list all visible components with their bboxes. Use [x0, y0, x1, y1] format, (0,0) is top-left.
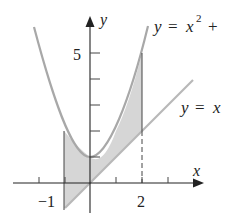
x-ticks [39, 177, 168, 183]
y-ticks [90, 53, 100, 157]
y-axis-arrow-icon [86, 16, 95, 27]
x-axis-arrow-icon [193, 179, 204, 188]
y-axis-label: y [98, 11, 108, 29]
svg-text:+: + [208, 17, 218, 36]
svg-text:=: = [195, 98, 205, 117]
svg-text:2: 2 [196, 12, 202, 24]
shaded-region [64, 53, 142, 209]
tick-label-5: 5 [73, 46, 81, 63]
x-axis-label: x [192, 162, 200, 179]
graph: y x 5 −1 2 y = x 2 + y = x [0, 0, 230, 214]
svg-text:x: x [212, 98, 221, 117]
parabola-label: y = x 2 + [152, 12, 218, 36]
svg-text:y: y [152, 17, 162, 36]
svg-text:x: x [185, 17, 194, 36]
tick-label-neg1: −1 [38, 193, 55, 210]
tick-label-2: 2 [137, 193, 145, 210]
svg-text:=: = [168, 17, 178, 36]
svg-text:y: y [179, 98, 189, 117]
line-label: y = x [179, 98, 221, 117]
